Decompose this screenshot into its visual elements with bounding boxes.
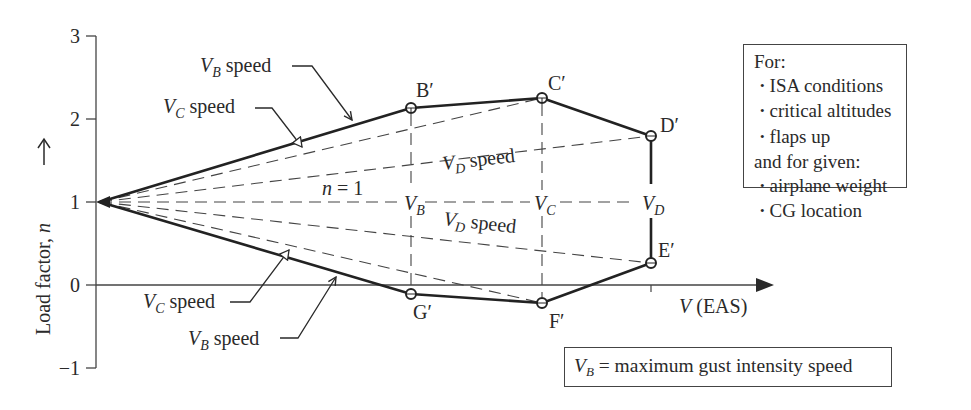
svg-text:−1: −1 — [59, 357, 80, 379]
y-axis — [86, 36, 96, 368]
vb-definition-note: VB = maximum gust intensity speed — [564, 347, 892, 387]
label-lower-vb-speed: VB speed — [188, 327, 259, 353]
y-axis-label: Load factor, n — [32, 223, 54, 335]
point-label-e: E′ — [658, 239, 675, 261]
envelope-outline — [100, 98, 651, 303]
svg-text:Load factor, n: Load factor, n — [32, 223, 54, 335]
svg-text:1: 1 — [70, 191, 80, 213]
svg-text:3: 3 — [70, 25, 80, 47]
point-label-f: F′ — [549, 310, 565, 332]
point-label-b: B′ — [416, 79, 434, 101]
svg-text:2: 2 — [70, 108, 80, 130]
label-upper-vc-speed: VC speed — [163, 95, 235, 121]
speed-markers: VB VC VD — [404, 192, 664, 218]
note-text: = maximum gust intensity speed — [594, 355, 853, 376]
n-equals-1-label: n = 1 — [322, 177, 363, 199]
marker-vc: VC — [534, 192, 556, 218]
legend-header-for: For: — [754, 50, 906, 74]
legend-item: ISA conditions — [754, 74, 906, 100]
label-upper-vb-speed: VB speed — [200, 54, 271, 80]
legend-item: airplane weight — [754, 174, 906, 200]
point-label-g: G′ — [413, 301, 432, 323]
label-lower-vd-speed: VD speed — [442, 207, 517, 241]
point-label-c: C′ — [548, 72, 566, 94]
note-var: V — [574, 355, 586, 376]
y-tick-labels: 3 2 1 0 −1 — [59, 25, 80, 379]
y-axis-label-arrow — [38, 139, 50, 165]
marker-vb: VB — [404, 192, 425, 218]
dashed-gust-lines — [100, 98, 651, 303]
legend-item: flaps up — [754, 125, 906, 151]
legend-item: CG location — [754, 199, 906, 225]
callout-arrow-upper-vb — [292, 66, 352, 120]
callout-arrow-lower-vc — [230, 250, 289, 302]
x-axis-label: V (EAS) — [679, 295, 747, 318]
legend-header-given: and for given: — [754, 150, 906, 174]
conditions-legend-box: For: ISA conditions critical altitudes f… — [743, 44, 907, 188]
svg-text:0: 0 — [70, 274, 80, 296]
marker-vd: VD — [642, 192, 664, 218]
label-lower-vc-speed: VC speed — [143, 290, 215, 316]
vertex-crosshairs — [406, 98, 656, 303]
callout-arrow-upper-vc — [255, 108, 302, 147]
origin-vertex — [96, 196, 110, 208]
note-sub: B — [586, 364, 594, 379]
label-upper-vd-speed: VD speed — [441, 144, 516, 178]
callout-arrow-lower-vb — [280, 277, 336, 338]
point-label-d: D′ — [660, 114, 679, 136]
legend-item: critical altitudes — [754, 99, 906, 125]
